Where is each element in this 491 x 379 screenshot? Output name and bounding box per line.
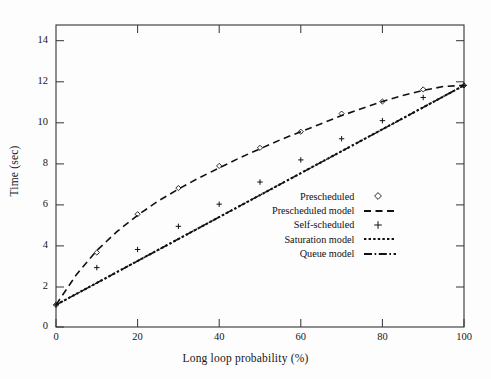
plus-marker-icon — [363, 218, 397, 232]
y-tick-label-12: 12 — [24, 75, 48, 86]
dotted-line-icon — [363, 232, 397, 246]
x-tick-marks — [56, 25, 464, 327]
data-point — [217, 163, 222, 168]
data-point — [94, 250, 99, 255]
data-point — [380, 118, 385, 123]
x-tick-label-40: 40 — [204, 331, 234, 342]
data-point — [217, 201, 222, 206]
y-tick-label-10: 10 — [24, 116, 48, 127]
data-point — [339, 136, 344, 141]
data-point — [176, 224, 181, 229]
y-tick-label-8: 8 — [24, 157, 48, 168]
x-tick-label-80: 80 — [367, 331, 397, 342]
x-tick-label-100: 100 — [449, 331, 479, 342]
figure-canvas: 14 12 10 8 6 4 2 0 0 20 40 60 80 100 Lon… — [0, 0, 491, 379]
data-point — [94, 265, 99, 270]
y-tick-label-14: 14 — [24, 34, 48, 45]
x-tick-label-0: 0 — [41, 331, 71, 342]
plot-frame — [56, 25, 464, 327]
dashdot-line-icon — [363, 247, 397, 261]
y-tick-label-2: 2 — [24, 280, 48, 291]
x-tick-label-20: 20 — [123, 331, 153, 342]
x-axis-title: Long loop probability (%) — [0, 352, 491, 364]
legend-label-queue-model: Queue model — [300, 248, 364, 259]
legend-label-self-scheduled: Self-scheduled — [294, 219, 364, 230]
legend-label-prescheduled: Prescheduled — [300, 191, 363, 202]
y-axis-title: Time (sec) — [8, 111, 20, 231]
data-point — [298, 157, 303, 162]
legend-item-prescheduled-model: Prescheduled model — [272, 203, 397, 217]
dashed-line-icon — [363, 204, 397, 218]
legend-label-prescheduled-model: Prescheduled model — [272, 205, 363, 216]
legend-item-saturation-model: Saturation model — [272, 232, 397, 246]
series-line-saturation-model — [56, 85, 464, 304]
y-tick-label-4: 4 — [24, 239, 48, 250]
legend-item-prescheduled: Prescheduled — [272, 189, 397, 203]
x-tick-label-60: 60 — [286, 331, 316, 342]
legend-item-self-scheduled: Self-scheduled — [272, 218, 397, 232]
y-tick-label-6: 6 — [24, 198, 48, 209]
y-tick-label-0: 0 — [24, 320, 48, 331]
data-point — [421, 95, 426, 100]
legend: Prescheduled Prescheduled model Self-sch… — [272, 189, 397, 261]
data-point — [257, 179, 262, 184]
open-diamond-marker-icon — [363, 189, 397, 203]
legend-item-queue-model: Queue model — [272, 247, 397, 261]
plot-area — [0, 0, 491, 379]
legend-label-saturation-model: Saturation model — [284, 234, 363, 245]
data-point — [135, 247, 140, 252]
